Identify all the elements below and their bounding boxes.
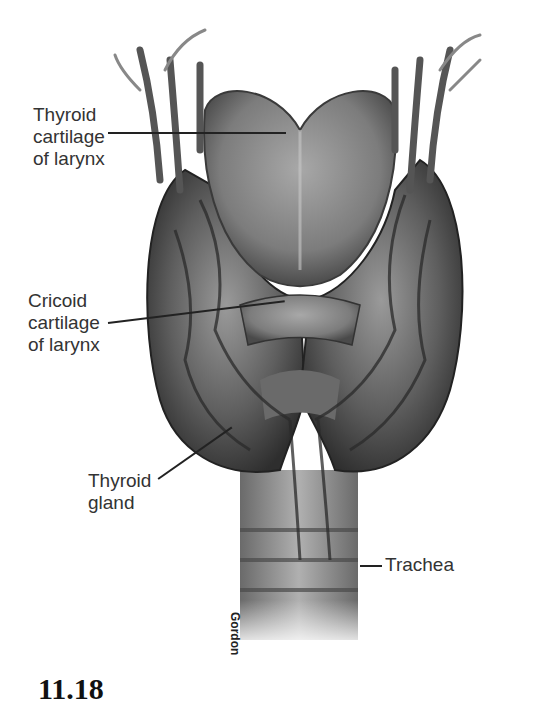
label-thyroid-gland: Thyroid gland (88, 470, 151, 514)
leader-trachea (360, 565, 382, 567)
leader-thyroid-cartilage (108, 132, 286, 134)
label-thyroid-cartilage: Thyroid cartilage of larynx (33, 104, 105, 170)
label-cricoid-cartilage: Cricoid cartilage of larynx (28, 290, 100, 356)
label-trachea: Trachea (385, 554, 454, 576)
illustrator-credit: Gordon (228, 612, 242, 655)
figure-number: 11.18 (38, 672, 104, 703)
